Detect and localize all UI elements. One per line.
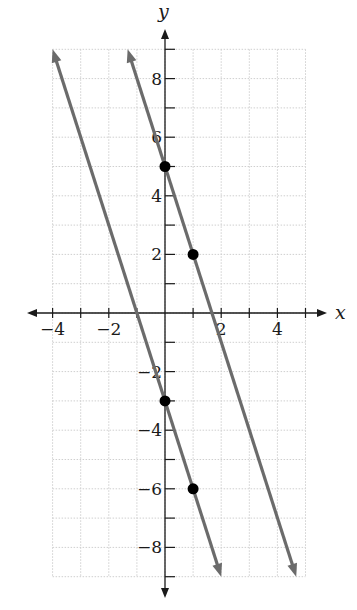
line-lower-arrow-down-icon: [212, 563, 222, 577]
y-tick-label: 2: [151, 244, 162, 264]
x-axis-label: x: [335, 301, 346, 323]
y-axis-arrow-up-icon: [161, 29, 169, 39]
data-point: [160, 395, 171, 406]
y-tick-label: 8: [151, 69, 162, 89]
data-point: [160, 161, 171, 172]
y-tick-label: 4: [151, 186, 162, 206]
y-tick-label: −8: [137, 537, 162, 557]
x-tick-label: −4: [40, 319, 65, 339]
coordinate-plane: −4−2248642−2−4−6−8 x y: [0, 0, 357, 610]
y-tick-label: −4: [137, 420, 162, 440]
x-tick-label: 4: [272, 319, 283, 339]
y-axis-arrow-down-icon: [161, 588, 169, 598]
data-point: [188, 249, 199, 260]
line-upper-arrow-down-icon: [288, 563, 298, 577]
y-tick-label: −6: [137, 479, 162, 499]
y-axis-label: y: [157, 0, 169, 22]
data-point: [188, 483, 199, 494]
x-axis-arrow-left-icon: [27, 309, 37, 317]
line-lower-arrow-up-icon: [52, 49, 62, 63]
x-axis-arrow-right-icon: [317, 309, 327, 317]
x-tick-label: −2: [96, 319, 121, 339]
line-upper-arrow-up-icon: [127, 49, 137, 63]
